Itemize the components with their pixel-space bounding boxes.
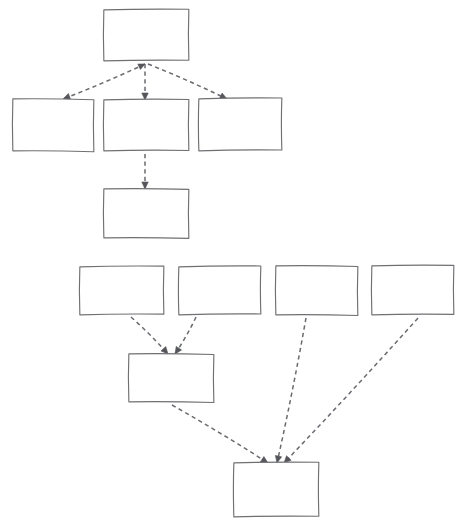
edge-node-a1-to-node-b2 — [142, 64, 148, 100]
node-rect[interactable] — [103, 99, 188, 151]
node-rect[interactable] — [371, 265, 453, 315]
edge-node-d2-to-node-e1 — [175, 317, 196, 354]
node-rect[interactable] — [198, 98, 281, 151]
node-rect[interactable] — [103, 9, 188, 61]
edge-node-a1-to-node-b1 — [63, 64, 145, 99]
arrow-head-end — [142, 182, 148, 189]
node-rect[interactable] — [233, 462, 318, 517]
node-rect[interactable] — [275, 266, 357, 316]
edge-path — [277, 318, 306, 463]
node-node-a1[interactable] — [103, 9, 188, 61]
edge-node-e1-to-node-f1 — [172, 405, 268, 463]
edge-node-d4-to-node-f1 — [284, 318, 418, 463]
edge-path — [284, 318, 418, 463]
node-node-b3[interactable] — [198, 98, 281, 151]
node-node-e1[interactable] — [128, 354, 213, 403]
arrow-head-end — [175, 346, 182, 354]
edge-node-d3-to-node-f1 — [275, 318, 306, 463]
diagram-canvas — [0, 0, 470, 528]
node-rect[interactable] — [79, 266, 163, 315]
node-node-f1[interactable] — [233, 462, 318, 517]
edge-path — [148, 64, 227, 99]
node-node-d3[interactable] — [275, 266, 357, 316]
arrow-head-end — [161, 347, 168, 354]
node-node-d1[interactable] — [79, 266, 163, 315]
edge-path — [131, 317, 168, 354]
node-node-d2[interactable] — [178, 266, 260, 315]
edge-node-b2-to-node-c1 — [142, 154, 148, 189]
edge-path — [63, 64, 145, 99]
node-node-b1[interactable] — [12, 99, 93, 152]
node-rect[interactable] — [103, 189, 188, 239]
edge-node-d1-to-node-e1 — [131, 317, 168, 354]
node-rect[interactable] — [12, 99, 93, 152]
node-node-b2[interactable] — [103, 99, 188, 151]
node-node-c1[interactable] — [103, 189, 188, 239]
node-rect[interactable] — [178, 266, 260, 315]
edge-node-a1-to-node-b3 — [148, 64, 227, 99]
node-node-d4[interactable] — [371, 265, 453, 315]
flowchart-svg — [0, 0, 470, 528]
edge-path — [172, 405, 268, 463]
arrow-head-start — [138, 64, 145, 69]
node-rect[interactable] — [128, 354, 213, 403]
